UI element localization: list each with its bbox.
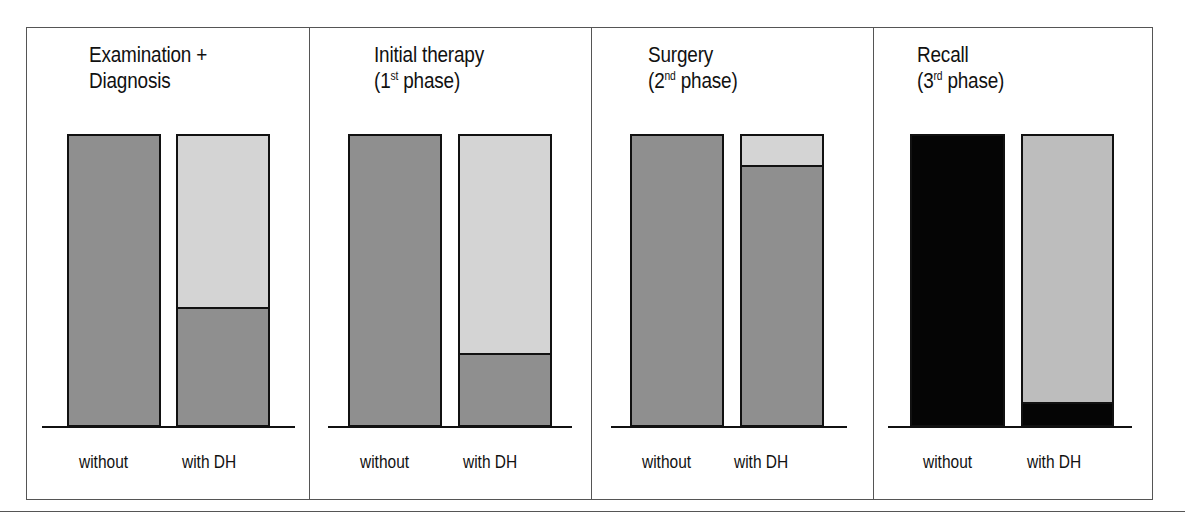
panel-surgery: Surgery (2nd phase) without with DH [591, 28, 873, 499]
panel-title: Recall (3rd phase) [917, 42, 1004, 94]
x-label-without: without [923, 452, 972, 473]
baseline [611, 426, 847, 428]
title-line-2: (3rd phase) [917, 68, 1004, 94]
bar-with-dh [1021, 134, 1114, 427]
panel-examination-diagnosis: Examination + Diagnosis without with DH [27, 28, 309, 499]
title-line-2: (1st phase) [374, 68, 484, 94]
x-label-with-dh: with DH [734, 452, 788, 473]
bar-with-dh [458, 134, 552, 427]
panel-recall: Recall (3rd phase) without with DH [873, 28, 1153, 499]
x-label-with-dh: with DH [1027, 452, 1081, 473]
bar-with-dh [740, 134, 824, 427]
x-label-without: without [360, 452, 409, 473]
bar-light-segment [1023, 136, 1112, 404]
panel-title: Initial therapy (1st phase) [374, 42, 484, 94]
panel-initial-therapy: Initial therapy (1st phase) without with… [309, 28, 592, 499]
bar-without [67, 134, 161, 427]
panel-title: Examination + Diagnosis [89, 42, 207, 94]
bar-light-segment [178, 136, 268, 309]
x-label-without: without [642, 452, 691, 473]
title-line-2: Diagnosis [89, 68, 207, 94]
panel-title: Surgery (2nd phase) [648, 42, 738, 94]
bar-light-segment [460, 136, 550, 355]
bar-light-segment [742, 136, 822, 167]
title-line-1: Initial therapy [374, 42, 484, 68]
x-label-with-dh: with DH [463, 452, 517, 473]
bar-with-dh [176, 134, 270, 427]
bar-without [630, 134, 724, 427]
x-label-with-dh: with DH [182, 452, 236, 473]
bar-without [348, 134, 442, 427]
baseline [888, 426, 1132, 428]
bottom-rule [0, 511, 1185, 512]
chart-frame: Examination + Diagnosis without with DH … [26, 27, 1153, 500]
title-line-1: Examination + [89, 42, 207, 68]
title-line-1: Recall [917, 42, 1004, 68]
baseline [42, 426, 295, 428]
baseline [328, 426, 572, 428]
bar-without [910, 134, 1005, 427]
x-label-without: without [79, 452, 128, 473]
title-line-1: Surgery [648, 42, 738, 68]
title-line-2: (2nd phase) [648, 68, 738, 94]
